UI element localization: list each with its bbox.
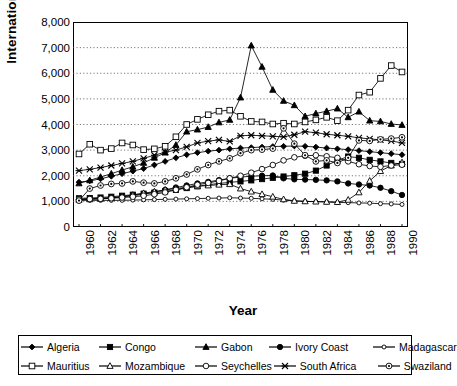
data-point-marker <box>313 168 318 173</box>
data-point-marker <box>399 140 406 146</box>
data-point-marker <box>277 344 282 349</box>
data-point-marker <box>238 150 244 156</box>
data-point-marker <box>270 173 275 178</box>
data-point-marker <box>345 181 350 186</box>
legend-row: MauritiusMozambiqueSeychellesSouth Afric… <box>19 356 411 376</box>
data-point-marker <box>281 125 287 131</box>
data-point-marker <box>368 201 372 205</box>
data-point-marker <box>356 148 362 154</box>
legend-item-gabon[interactable]: Gabon <box>193 337 267 357</box>
data-point-marker <box>227 107 233 113</box>
data-point-marker <box>119 140 125 146</box>
y-tick-label: 7,000 <box>41 42 70 54</box>
data-point-marker <box>335 146 341 152</box>
legend-row: AlgeriaCongoGabonIvory CoastMadagascar <box>19 337 411 357</box>
data-point-marker <box>389 202 393 206</box>
legend-item-congo[interactable]: Congo <box>97 337 193 357</box>
data-point-marker <box>141 193 147 199</box>
legend-item-mauritius[interactable]: Mauritius <box>19 356 97 376</box>
data-point-marker <box>399 69 405 75</box>
data-point-marker <box>248 132 255 138</box>
legend-item-south-africa[interactable]: South Africa <box>272 356 376 376</box>
legend-label: Congo <box>123 341 156 353</box>
legend-item-swaziland[interactable]: Swaziland <box>376 356 452 376</box>
legend-label: Algeria <box>45 341 80 353</box>
data-point-marker <box>324 178 329 183</box>
data-point-marker <box>324 115 330 121</box>
data-point-marker <box>98 147 104 153</box>
data-point-marker <box>227 117 233 123</box>
data-point-marker <box>184 122 190 128</box>
data-point-marker <box>239 196 243 200</box>
data-point-marker <box>302 152 308 158</box>
data-point-marker <box>280 134 287 140</box>
data-point-marker <box>87 196 93 202</box>
legend-item-seychelles[interactable]: Seychelles <box>193 356 272 376</box>
data-point-marker <box>130 142 136 148</box>
x-tick-label: 1978 <box>278 230 290 256</box>
data-point-marker <box>356 108 362 114</box>
legend-item-mozambique[interactable]: Mozambique <box>97 356 193 376</box>
data-point-marker <box>195 166 201 172</box>
data-point-marker <box>227 155 233 161</box>
data-point-marker <box>151 162 157 168</box>
series-canvas <box>73 22 408 227</box>
data-point-marker <box>227 176 233 182</box>
data-point-marker <box>205 138 212 144</box>
data-point-marker <box>399 152 405 158</box>
data-point-marker <box>378 150 384 156</box>
data-point-marker <box>119 160 126 166</box>
data-point-marker <box>367 89 373 95</box>
circle-dot-icon <box>376 359 402 373</box>
data-point-marker <box>302 129 309 135</box>
y-tick-label: 6,000 <box>41 67 70 79</box>
data-point-marker <box>216 137 223 143</box>
data-point-marker <box>249 196 253 200</box>
data-point-marker <box>141 166 147 172</box>
data-point-marker <box>269 133 276 139</box>
data-point-marker <box>291 141 297 147</box>
data-point-marker <box>195 197 199 201</box>
data-point-marker <box>335 160 341 166</box>
data-point-marker <box>313 152 319 158</box>
legend-label: Madagascar <box>397 341 457 353</box>
data-point-marker <box>357 201 361 205</box>
data-point-marker <box>313 159 319 165</box>
data-point-marker <box>184 184 190 190</box>
data-point-marker <box>205 180 211 186</box>
data-point-marker <box>109 146 115 152</box>
x-tick-label: 1970 <box>192 230 204 256</box>
legend-item-ivory-coast[interactable]: Ivory Coast <box>267 337 371 357</box>
data-point-marker <box>378 76 384 82</box>
data-point-marker <box>367 157 372 162</box>
x-axis-tick-labels: 1960196219641966196819701972197419761978… <box>73 230 408 300</box>
data-point-marker <box>151 181 157 187</box>
data-point-marker <box>334 105 340 111</box>
data-point-marker <box>356 137 362 143</box>
open-circle-icon <box>193 359 219 373</box>
open-circle-small-icon <box>371 340 397 354</box>
data-point-marker <box>382 345 386 349</box>
data-point-marker <box>270 146 276 152</box>
data-point-marker <box>324 157 330 163</box>
data-point-marker <box>216 178 222 184</box>
data-point-marker <box>29 363 35 369</box>
data-point-marker <box>162 190 168 196</box>
data-point-marker <box>227 146 233 152</box>
data-point-marker <box>238 114 244 120</box>
data-point-marker <box>270 121 276 127</box>
data-point-marker <box>345 114 351 120</box>
data-point-marker <box>185 197 189 201</box>
data-point-marker <box>119 195 125 201</box>
legend-item-algeria[interactable]: Algeria <box>19 337 97 357</box>
legend-item-madagascar[interactable]: Madagascar <box>371 337 457 357</box>
data-point-marker <box>367 117 373 123</box>
x-tick-label: 1976 <box>256 230 268 256</box>
data-point-marker <box>302 119 308 125</box>
x-tick-label: 1982 <box>321 230 333 256</box>
data-point-marker <box>195 117 201 123</box>
data-point-marker <box>217 196 221 200</box>
x-tick-label: 1960 <box>84 230 96 256</box>
data-point-marker <box>312 130 319 136</box>
data-point-marker <box>119 181 125 187</box>
